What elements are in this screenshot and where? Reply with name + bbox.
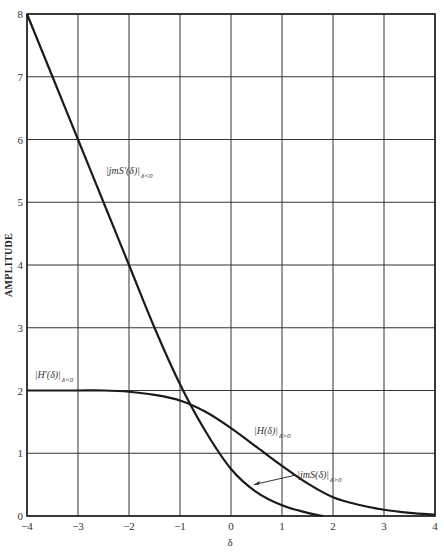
amplitude-chart: −4−3−2−101234 012345678 δ AMPLITUDE |jmS…	[0, 0, 444, 552]
x-axis-ticks: −4−3−2−101234	[21, 520, 438, 532]
curve-annotations: |jmS′(δ)|δ<0|H′(δ)|δ<0|H(δ)|δ>0|jmS(δ)|δ…	[35, 165, 342, 485]
annotation-subscript: δ>0	[279, 432, 291, 440]
x-axis-label: δ	[227, 536, 232, 548]
x-tick-label: 2	[330, 520, 336, 532]
annotation-arrow	[254, 475, 294, 484]
y-tick-label: 5	[18, 196, 24, 208]
annotation-label: |H′(δ)|	[35, 369, 61, 381]
y-axis-ticks: 012345678	[18, 8, 24, 522]
annotation-subscript: δ>0	[330, 476, 342, 484]
y-tick-label: 1	[18, 447, 24, 459]
y-tick-label: 0	[18, 510, 24, 522]
grid-lines	[27, 14, 435, 516]
annotation-subscript: δ<0	[62, 376, 74, 384]
x-tick-label: −2	[123, 520, 135, 532]
y-tick-label: 2	[18, 385, 24, 397]
annotation-label: |jmS(δ)|	[297, 469, 329, 481]
y-tick-label: 6	[18, 134, 24, 146]
x-tick-label: 3	[381, 520, 387, 532]
y-tick-label: 8	[18, 8, 24, 20]
y-tick-label: 7	[18, 71, 24, 83]
x-tick-label: −3	[72, 520, 84, 532]
x-tick-label: 1	[279, 520, 285, 532]
annotation-subscript: δ<0	[141, 172, 153, 180]
annotation-label: |jmS′(δ)|	[106, 165, 140, 177]
x-tick-label: 4	[432, 520, 438, 532]
annotation-label: |H(δ)|	[254, 425, 278, 437]
x-tick-label: −1	[174, 520, 186, 532]
y-tick-label: 4	[18, 259, 24, 271]
x-tick-label: 0	[228, 520, 234, 532]
y-tick-label: 3	[18, 322, 24, 334]
y-axis-label: AMPLITUDE	[3, 233, 14, 297]
